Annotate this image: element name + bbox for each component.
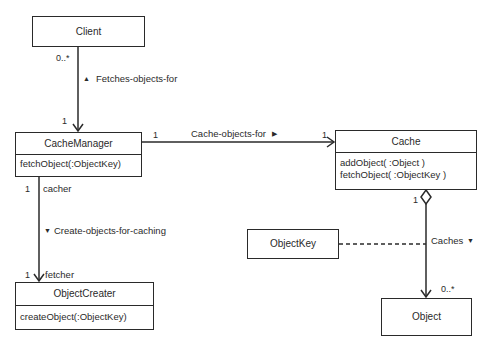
class-name: CacheManager	[16, 133, 141, 154]
direction-glyph-caches: ▼	[467, 237, 474, 244]
multiplicity-creater: 1	[25, 270, 30, 280]
association-label-caches: Caches	[431, 235, 463, 246]
multiplicity-client: 0..*	[56, 53, 70, 63]
multiplicity-object: 0..*	[441, 284, 455, 294]
association-label-cache-objects: Cache-objects-for	[191, 128, 266, 139]
class-cache-manager: CacheManager fetchObject(:ObjectKey)	[15, 132, 142, 177]
association-label-fetches: Fetches-objects-for	[96, 73, 177, 84]
multiplicity-cache-bottom: 1	[413, 195, 418, 205]
class-name: ObjectCreater	[16, 283, 153, 305]
operation: addObject( :Object )	[340, 157, 472, 169]
class-name: Object	[382, 299, 471, 335]
class-client: Client	[32, 16, 145, 47]
class-operations: createObject(:ObjectKey)	[16, 305, 153, 326]
direction-glyph-cache-objects: ▶	[272, 130, 277, 138]
class-name: Cache	[336, 131, 476, 152]
class-object-key: ObjectKey	[247, 229, 339, 259]
class-object: Object	[381, 298, 472, 336]
class-cache: Cache addObject( :Object ) fetchObject( …	[335, 130, 477, 190]
multiplicity-manager-right: 1	[153, 130, 158, 140]
class-operations: fetchObject(:ObjectKey)	[16, 154, 141, 173]
multiplicity-cache-left: 1	[322, 130, 327, 140]
operation: fetchObject( :ObjectKey )	[340, 169, 472, 181]
direction-glyph-fetches: ▲	[83, 75, 90, 82]
class-operations: addObject( :Object ) fetchObject( :Objec…	[336, 152, 476, 184]
role-fetcher: fetcher	[45, 269, 74, 280]
operation: fetchObject(:ObjectKey)	[20, 158, 137, 170]
multiplicity-manager-top: 1	[62, 116, 67, 126]
class-name: Client	[33, 17, 144, 46]
direction-glyph-create: ▼	[44, 227, 51, 234]
operation: createObject(:ObjectKey)	[20, 311, 149, 323]
class-object-creater: ObjectCreater createObject(:ObjectKey)	[15, 282, 154, 330]
role-cacher: cacher	[43, 183, 72, 194]
association-label-create: Create-objects-for-caching	[54, 225, 166, 236]
class-name: ObjectKey	[248, 230, 338, 258]
multiplicity-manager-bottom: 1	[25, 184, 30, 194]
